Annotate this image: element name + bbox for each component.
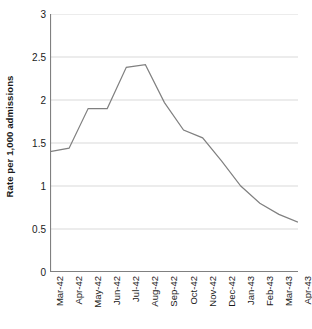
x-axis-tick-label: Feb-43: [264, 276, 275, 306]
x-axis-tick-label: May-42: [92, 276, 103, 308]
gridlines: [50, 14, 298, 229]
x-axis-tick-label: Jan-43: [245, 276, 256, 305]
y-axis-tick-label: 1: [20, 181, 46, 192]
y-axis-tick-label: 3: [20, 9, 46, 20]
y-axis-tick-label: 2.5: [20, 52, 46, 63]
y-axis-tick-label: 0: [20, 267, 46, 278]
plot-area: [50, 14, 298, 272]
y-axis-tick-labels: 00.511.522.53: [16, 0, 46, 329]
line-chart: Rate per 1,000 admissions 00.511.522.53 …: [0, 0, 312, 329]
x-axis-tick-label: Apr-43: [302, 276, 312, 305]
x-axis-tick-label: Mar-43: [283, 276, 294, 306]
x-axis-tick-label: Dec-42: [226, 276, 237, 307]
plot-svg: [50, 14, 298, 272]
x-axis-tick-label: Nov-42: [207, 276, 218, 307]
y-axis-tick-label: 2: [20, 95, 46, 106]
x-axis-tick-label: Sep-42: [168, 276, 179, 307]
x-axis-tick-label: Apr-42: [73, 276, 84, 305]
x-axis-tick-labels: Mar-42Apr-42May-42Jun-42Jul-42Aug-42Sep-…: [50, 272, 298, 329]
x-axis-tick-label: Oct-42: [188, 276, 199, 305]
x-axis-tick-label: Aug-42: [149, 276, 160, 307]
y-axis-title-text: Rate per 1,000 admissions: [5, 75, 16, 197]
x-axis-tick-label: Jul-42: [130, 276, 141, 302]
y-axis-tick-label: 0.5: [20, 224, 46, 235]
x-axis-tick-label: Jun-42: [111, 276, 122, 305]
x-axis-tick-label: Mar-42: [54, 276, 65, 306]
y-axis-tick-label: 1.5: [20, 138, 46, 149]
